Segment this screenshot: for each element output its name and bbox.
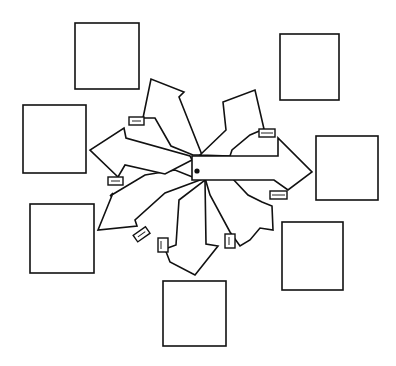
- box-bottom: [163, 281, 226, 346]
- box-top-right: [280, 34, 339, 100]
- center-dot: [194, 168, 199, 173]
- box-left-lower: [30, 204, 94, 273]
- box-left-upper: [23, 105, 86, 173]
- arrow-down-right: [205, 178, 273, 246]
- tag-up-left: [129, 117, 144, 125]
- tag-right: [270, 191, 287, 199]
- arrow-up-left: [143, 79, 202, 155]
- box-right: [316, 136, 378, 200]
- box-right-lower: [282, 222, 343, 290]
- tag-down: [158, 238, 168, 252]
- arrow-up-right: [200, 90, 264, 156]
- diagram-canvas: [0, 0, 396, 366]
- tag-down-left: [133, 227, 150, 242]
- tag-up-right: [259, 129, 275, 137]
- tag-left: [108, 177, 123, 185]
- tag-down-right: [225, 234, 235, 248]
- box-top-left: [75, 23, 139, 89]
